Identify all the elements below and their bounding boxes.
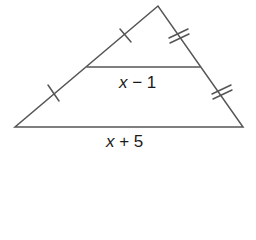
- midsegment-variable: x: [119, 73, 128, 92]
- midsegment-expression: − 1: [128, 73, 157, 92]
- midsegment-label: x − 1: [119, 73, 156, 93]
- base-label: x + 5: [106, 132, 143, 152]
- base-expression: + 5: [115, 132, 144, 151]
- base-variable: x: [106, 132, 115, 151]
